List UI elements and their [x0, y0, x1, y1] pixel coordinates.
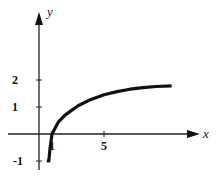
series: [47, 86, 172, 161]
y-tick-label: -1: [13, 154, 23, 168]
x-axis-arrow-icon: [187, 130, 200, 138]
y-axis-label: y: [45, 4, 53, 19]
chart: 15-112 x y: [0, 0, 220, 177]
y-tick-label: 2: [12, 73, 18, 87]
x-tick-label: 5: [101, 139, 107, 153]
y-tick-label: 1: [12, 100, 18, 114]
y-axis-arrow-icon: [35, 12, 43, 25]
x-axis-label: x: [202, 126, 209, 141]
curve-line: [47, 86, 172, 161]
